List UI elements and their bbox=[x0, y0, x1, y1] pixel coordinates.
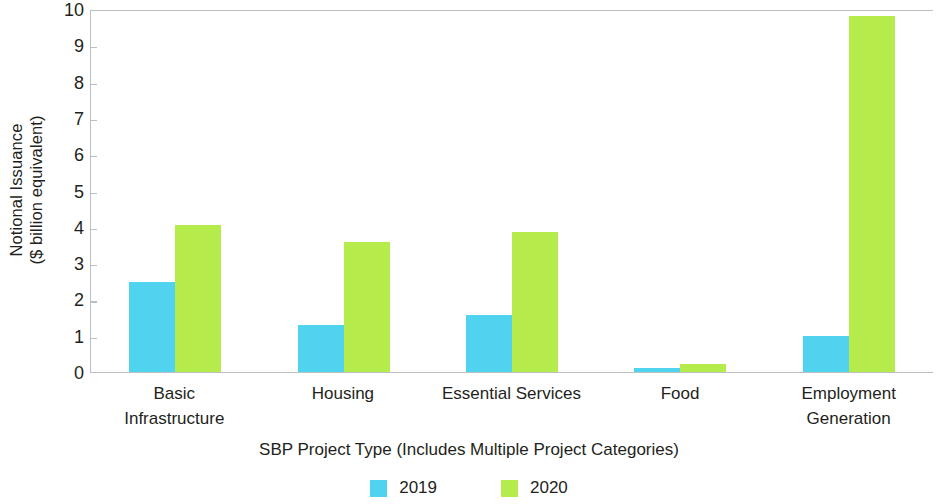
plot-area bbox=[90, 10, 933, 373]
y-axis-tick-mark bbox=[91, 120, 97, 121]
bar-group bbox=[765, 11, 933, 372]
y-axis-tick-label: 0 bbox=[52, 364, 84, 382]
bar-group bbox=[428, 11, 596, 372]
x-axis-category-label: EmploymentGeneration bbox=[764, 381, 933, 437]
bar-2019[interactable] bbox=[129, 282, 175, 372]
y-axis-tick-label: 10 bbox=[52, 1, 84, 19]
bar-chart-figure: Notional Issuance ($ billion equivalent)… bbox=[0, 0, 938, 504]
x-axis-category-label: Essential Services bbox=[427, 381, 596, 437]
bar-2019[interactable] bbox=[634, 368, 680, 372]
y-axis-tick-label: 1 bbox=[52, 328, 84, 346]
legend-swatch-icon bbox=[501, 480, 518, 497]
bar-group bbox=[596, 11, 764, 372]
legend-swatch-icon bbox=[370, 480, 387, 497]
legend-item-2020[interactable]: 2020 bbox=[501, 478, 568, 498]
y-axis-tick-label: 8 bbox=[52, 74, 84, 92]
y-axis-tick-mark bbox=[91, 47, 97, 48]
x-axis-category-label: Housing bbox=[259, 381, 428, 437]
x-axis-category-labels: BasicInfrastructureHousingEssential Serv… bbox=[90, 381, 933, 437]
bar-group bbox=[91, 11, 259, 372]
y-axis-tick-labels: 012345678910 bbox=[52, 0, 90, 384]
category-label-line1: Employment bbox=[801, 384, 895, 403]
bar-2020[interactable] bbox=[680, 364, 726, 372]
chart-legend: 20192020 bbox=[0, 478, 938, 498]
y-axis-tick-label: 7 bbox=[52, 110, 84, 128]
x-axis-category-label: Food bbox=[596, 381, 765, 437]
legend-label: 2019 bbox=[399, 478, 437, 498]
bar-groups bbox=[91, 11, 933, 372]
x-axis-category-label: BasicInfrastructure bbox=[90, 381, 259, 437]
category-label-line1: Housing bbox=[312, 384, 374, 403]
y-axis-tick-label: 4 bbox=[52, 219, 84, 237]
category-label-line1: Basic bbox=[154, 384, 196, 403]
y-axis-tick-mark bbox=[91, 193, 97, 194]
y-axis-tick-mark bbox=[91, 84, 97, 85]
y-axis-tick-label: 6 bbox=[52, 146, 84, 164]
bar-2019[interactable] bbox=[298, 325, 344, 372]
bar-2020[interactable] bbox=[512, 232, 558, 372]
y-axis-title: Notional Issuance ($ billion equivalent) bbox=[0, 0, 52, 380]
y-axis-tick-label: 2 bbox=[52, 291, 84, 309]
legend-item-2019[interactable]: 2019 bbox=[370, 478, 437, 498]
bar-2019[interactable] bbox=[466, 315, 512, 372]
y-axis-title-line1: Notional Issuance bbox=[7, 124, 25, 257]
bar-2020[interactable] bbox=[344, 242, 390, 372]
category-label-line2: Generation bbox=[764, 406, 933, 431]
y-axis-tick-mark bbox=[91, 156, 97, 157]
category-label-line1: Food bbox=[661, 384, 700, 403]
legend-label: 2020 bbox=[530, 478, 568, 498]
y-axis-tick-mark bbox=[91, 265, 97, 266]
bar-2020[interactable] bbox=[175, 225, 221, 372]
y-axis-tick-mark bbox=[91, 338, 97, 339]
y-axis-tick-mark bbox=[91, 229, 97, 230]
bar-2020[interactable] bbox=[849, 16, 895, 372]
x-axis-title: SBP Project Type (Includes Multiple Proj… bbox=[0, 440, 938, 460]
category-label-line1: Essential Services bbox=[442, 384, 581, 403]
bar-group bbox=[259, 11, 427, 372]
y-axis-tick-mark bbox=[91, 301, 97, 302]
category-label-line2: Infrastructure bbox=[90, 406, 259, 431]
y-axis-tick-label: 3 bbox=[52, 255, 84, 273]
y-axis-title-line2: ($ billion equivalent) bbox=[26, 116, 46, 265]
y-axis-tick-label: 9 bbox=[52, 37, 84, 55]
y-axis-tick-label: 5 bbox=[52, 183, 84, 201]
bar-2019[interactable] bbox=[803, 336, 849, 372]
